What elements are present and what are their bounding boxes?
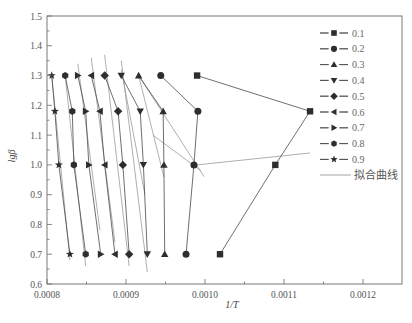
y-tick-label: 0.9 [30, 190, 42, 200]
hexagon-marker [71, 161, 77, 168]
triangle-up-marker [160, 161, 167, 168]
legend-label: 0.2 [352, 43, 365, 54]
fit-line [65, 76, 86, 267]
legend-label: 0.3 [352, 59, 365, 70]
square-icon [331, 30, 337, 36]
legend-item-0.4: 0.4 [320, 75, 365, 86]
triangle-up-marker [135, 72, 142, 79]
y-axis-tick-labels: 0.60.70.80.91.01.11.21.31.41.5 [30, 12, 42, 290]
chart: 0.00080.00090.00100.00110.0012 0.60.70.8… [0, 0, 412, 323]
fit-line [197, 153, 310, 165]
square-marker [217, 251, 223, 257]
x-tick-label: 0.0010 [192, 290, 218, 300]
legend-label: 0.9 [352, 154, 365, 165]
axis-ticks [47, 16, 363, 284]
legend-label: 0.7 [352, 122, 365, 133]
triangle-up-marker [159, 108, 166, 115]
diamond-marker [114, 107, 122, 115]
x-axis-label: 1/T [225, 299, 240, 310]
fit-line [78, 64, 100, 231]
hexagon-marker [83, 251, 89, 258]
y-tick-label: 1.0 [30, 160, 42, 170]
triangle-right-marker [98, 251, 105, 258]
triangle-down-marker [144, 251, 151, 258]
series-connect-line [197, 76, 310, 255]
square-marker [272, 162, 278, 168]
series-0.1 [194, 72, 313, 257]
x-tick-label: 0.0012 [350, 290, 376, 300]
circle-marker [183, 251, 190, 258]
fit-line [139, 76, 164, 177]
series-0.3 [135, 72, 168, 257]
triangle-down-marker [137, 108, 144, 115]
fit-lines [52, 55, 310, 272]
data-series [48, 71, 314, 258]
circle-marker [190, 161, 197, 168]
diamond-marker [119, 161, 127, 169]
legend-item-0.2: 0.2 [320, 43, 365, 54]
circle-marker [157, 72, 164, 79]
triangle-down-marker [118, 73, 125, 80]
hexagon-marker [69, 108, 75, 115]
x-tick-label: 0.0008 [34, 290, 60, 300]
legend-item-0.3: 0.3 [320, 59, 365, 70]
x-tick-label: 0.0011 [271, 290, 297, 300]
square-marker [307, 108, 313, 114]
triangle-down-marker [140, 162, 147, 169]
legend-item-0.9: 0.9 [320, 154, 365, 165]
y-tick-label: 0.6 [30, 280, 42, 290]
plot-frame [47, 16, 402, 284]
legend-fit-label: 拟合曲线 [354, 168, 398, 182]
series-0.8 [62, 72, 89, 258]
legend-fit-entry: 拟合曲线 [320, 168, 398, 182]
legend-item-0.6: 0.6 [320, 107, 365, 118]
y-tick-label: 0.8 [30, 220, 42, 230]
y-axis-label: lgβ [6, 150, 17, 163]
triangle-up-marker [161, 251, 168, 258]
legend-label: 0.5 [352, 91, 365, 102]
x-tick-label: 0.0009 [113, 290, 139, 300]
x-axis-tick-labels: 0.00080.00090.00100.00110.0012 [34, 290, 376, 300]
legend-item-0.1: 0.1 [320, 28, 365, 39]
legend-label: 0.1 [352, 28, 365, 39]
legend-item-0.7: 0.7 [320, 122, 365, 133]
legend-item-0.5: 0.5 [320, 91, 365, 102]
circle-icon [331, 46, 337, 52]
legend-label: 0.6 [352, 107, 365, 118]
legend-item-0.8: 0.8 [320, 138, 365, 149]
y-tick-label: 1.1 [30, 131, 42, 141]
y-tick-label: 1.3 [30, 71, 42, 81]
legend-label: 0.4 [352, 75, 365, 86]
hexagon-marker [62, 72, 68, 79]
square-marker [194, 72, 200, 78]
y-tick-label: 1.2 [30, 101, 42, 111]
legend: 0.10.20.30.40.50.60.70.80.9 [320, 28, 365, 165]
y-tick-label: 0.7 [30, 250, 42, 260]
triangle-left-marker [88, 72, 95, 79]
y-tick-label: 1.4 [30, 41, 42, 51]
y-tick-label: 1.5 [30, 12, 42, 22]
circle-marker [194, 108, 201, 115]
legend-label: 0.8 [352, 138, 365, 149]
diamond-marker [125, 250, 133, 258]
